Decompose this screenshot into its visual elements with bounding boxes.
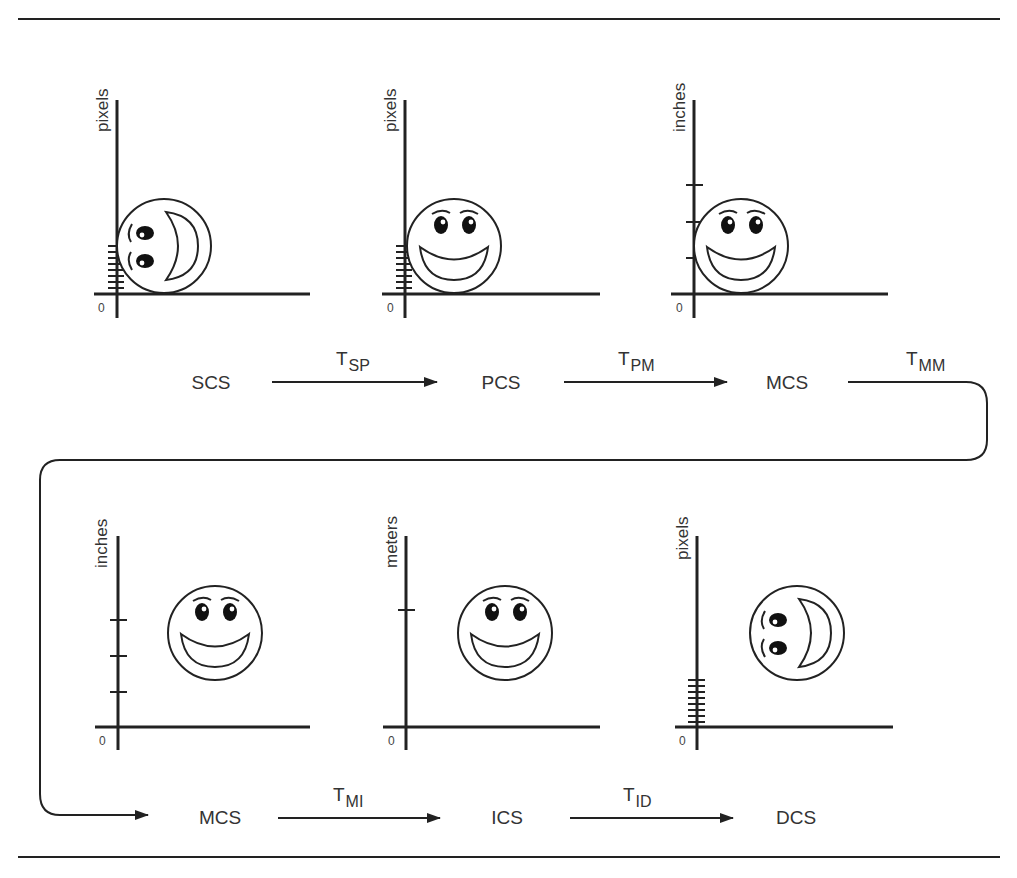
origin-label: 0 [387,301,394,315]
smiley-face-icon [694,199,788,293]
smiley-face-icon [458,586,552,680]
panel-mcs-top [671,100,888,318]
smiley-face-rotated-icon [750,586,844,680]
label-mcs-top: MCS [766,372,808,394]
transform-label-id: TID [623,784,652,811]
axis-label: pixels [381,89,401,132]
label-scs: SCS [191,372,230,394]
panel-mcs-bottom [95,536,310,750]
diagram-canvas [0,0,1017,878]
origin-label: 0 [679,734,686,748]
origin-label: 0 [98,301,105,315]
label-dcs: DCS [776,807,816,829]
axis-label: pixels [93,89,113,132]
panel-dcs [675,536,893,750]
label-pcs: PCS [481,372,520,394]
origin-label: 0 [99,734,106,748]
origin-label: 0 [388,734,395,748]
smiley-face-icon [407,199,501,293]
label-ics: ICS [491,807,523,829]
panel-scs [94,100,310,318]
panel-ics [383,536,600,750]
transform-label-sp: TSP [336,348,370,375]
smiley-face-rotated-icon [117,199,211,293]
transform-label-mi: TMI [333,784,363,811]
label-mcs-bottom: MCS [199,807,241,829]
smiley-face-icon [168,586,262,680]
panel-pcs [382,100,600,318]
axis-label: inches [670,83,690,132]
transform-label-pm: TPM [618,348,655,375]
transform-label-mm: TMM [906,348,945,375]
axis-label: inches [92,519,112,568]
axis-label: pixels [673,517,693,560]
axis-label: meters [382,516,402,568]
origin-label: 0 [676,301,683,315]
